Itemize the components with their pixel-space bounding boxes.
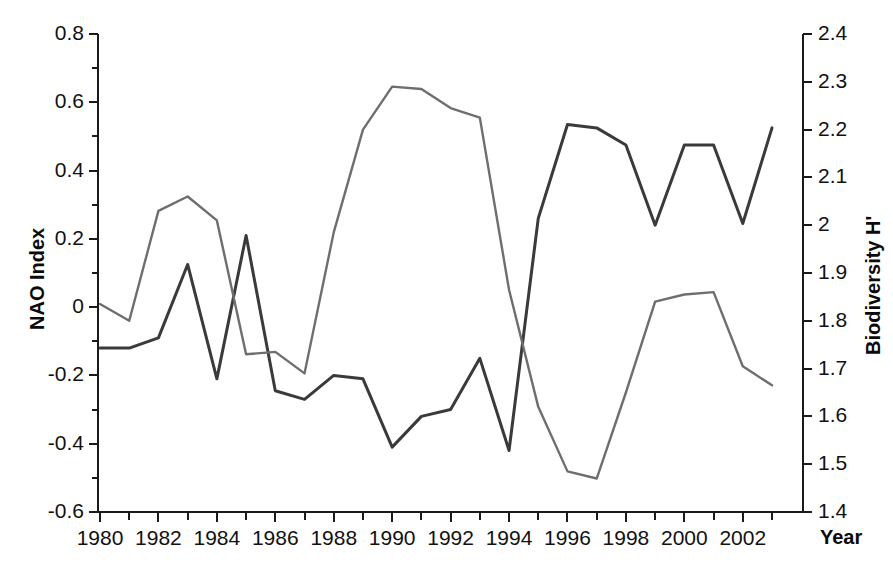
y-axis-right-tick-label: 1.4 [818,499,893,523]
series-line-nao [100,124,772,450]
data-series-group [100,87,772,479]
y-axis-left-tick-label: 0.8 [8,21,84,45]
series-line-biodiversity [100,87,772,479]
y-axis-left-tick-label: -0.6 [8,499,84,523]
y-axis-left-title: NAO Index [26,228,49,330]
y-axis-right-tick-label: 2.1 [818,164,893,188]
y-axis-right-tick-label: 2.4 [818,21,893,45]
x-axis-title: Year [820,526,862,549]
y-axis-left-tick-label: -0.4 [8,431,84,455]
y-axis-right-tick-label: 1.5 [818,451,893,475]
y-axis-right-tick-label: 2.2 [818,117,893,141]
x-axis-tick-label: 2002 [703,526,783,550]
y-axis-right-tick-label: 2.3 [818,69,893,93]
chart-plot-area [0,0,893,573]
y-axis-right-title: Biodiversity H' [862,216,885,355]
y-axis-left-tick-label: 0.4 [8,158,84,182]
y-axis-right-tick-label: 1.7 [818,356,893,380]
chart-figure: 0.80.60.40.20-0.2-0.4-0.6 2.42.32.22.121… [0,0,893,573]
y-axis-left-tick-label: -0.2 [8,362,84,386]
y-axis-right-tick-label: 1.6 [818,403,893,427]
y-axis-left-tick-label: 0.6 [8,89,84,113]
